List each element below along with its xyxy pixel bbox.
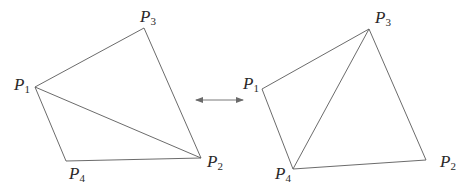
right-quadrilateral: P1P2P3P4 bbox=[242, 8, 456, 182]
edge-p1-p3 bbox=[35, 28, 144, 87]
edge-p4-p1 bbox=[262, 89, 293, 169]
vertex-label-p1: P1 bbox=[13, 75, 30, 95]
vertex-label-p1: P1 bbox=[242, 74, 259, 94]
edge-flip-diagram: P1P2P3P4 P1P2P3P4 bbox=[0, 0, 464, 182]
edge-p2-p4 bbox=[293, 160, 426, 169]
edge-p3-p2 bbox=[144, 28, 201, 158]
vertex-label-p4: P4 bbox=[68, 164, 85, 182]
vertex-label-p3: P3 bbox=[374, 8, 391, 28]
left-quadrilateral: P1P2P3P4 bbox=[13, 7, 223, 182]
vertex-label-p2: P2 bbox=[206, 152, 223, 172]
vertex-label-p4: P4 bbox=[274, 164, 291, 182]
vertex-label-p2: P2 bbox=[439, 152, 456, 172]
vertex-label-p3: P3 bbox=[139, 7, 156, 27]
edge-p3-p2 bbox=[369, 29, 426, 160]
edge-p2-p4 bbox=[66, 158, 201, 161]
